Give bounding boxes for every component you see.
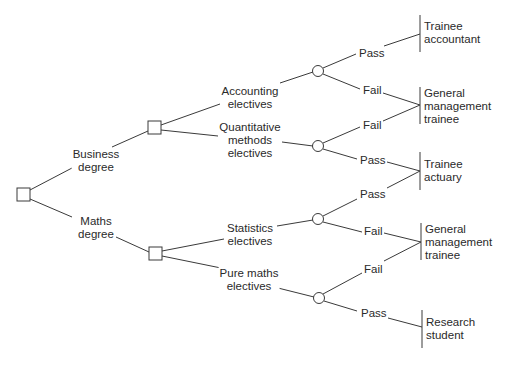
branch-label-pure-pass: Pass [360,307,388,320]
branch-label-quant-pass: Pass [359,154,387,167]
edge-acc-fail-b [383,93,420,105]
edge-pure-pass-a [324,301,357,311]
edge-acc-fail-a [323,74,360,89]
edge-stat-fail-a [323,222,362,232]
edge-business-accounting-b [280,72,313,83]
chance-node-statistics [313,214,324,225]
outcome-label-trainee-actuary: Trainee actuary [423,158,464,184]
edge-pure-fail-a [323,273,362,294]
decision-node-business [148,121,161,134]
chance-node-accounting [313,66,324,77]
edge-pure-fail-b [384,242,421,261]
edge-maths-pure-a [162,256,221,268]
edge-quant-pass-b [387,162,420,171]
branch-label-maths-degree: Maths degree [77,215,115,241]
edge-business-quant-a [161,130,218,136]
edge-root-business-b [112,131,148,147]
branch-label-quantitative-electives: Quantitative methods electives [218,121,281,160]
edge-stat-pass-b [387,171,420,188]
edge-quant-fail-b [383,105,420,121]
edge-stat-pass-a [323,199,357,216]
edge-maths-statistics-a [162,239,224,251]
outcome-label-general-management-2: General management trainee [424,223,493,262]
branch-label-acc-pass: Pass [358,47,386,60]
branch-label-pure-maths-electives: Pure maths electives [219,267,280,293]
edge-quant-fail-a [323,127,360,143]
edge-stat-fail-b [384,233,421,242]
branch-label-stat-fail: Fail [363,225,384,238]
outcome-label-general-management-1: General management trainee [423,87,492,126]
branch-label-quant-fail: Fail [362,119,383,132]
branch-label-business-degree: Business degree [72,148,121,174]
edge-root-maths-a [30,199,72,217]
edge-acc-pass-a [323,54,356,68]
edge-quant-pass-a [323,149,357,159]
branch-label-accounting-electives: Accounting electives [221,85,280,111]
outcome-label-trainee-accountant: Trainee accountant [423,20,481,46]
edge-pure-pass-b [388,318,422,327]
outcome-label-research-student: Research student [425,316,476,342]
edge-business-accounting-a [161,104,220,125]
chance-node-quantitative [313,141,324,152]
decision-tree-diagram: Business degree Maths degree Accounting … [0,0,511,366]
branch-label-stat-pass: Pass [359,188,387,201]
chance-node-pure-maths [314,293,325,304]
edge-root-maths-b [116,237,149,252]
branch-label-acc-fail: Fail [362,84,383,97]
branch-label-pure-fail: Fail [363,263,384,276]
decision-node-maths [149,247,162,260]
branch-label-statistics-electives: Statistics electives [226,222,274,248]
edge-root-business-a [30,168,72,190]
edge-maths-pure-b [274,287,314,297]
edge-business-quant-b [282,142,313,146]
decision-node-root [17,188,30,201]
edge-maths-statistics-b [277,220,313,226]
edge-acc-pass-b [384,34,420,46]
